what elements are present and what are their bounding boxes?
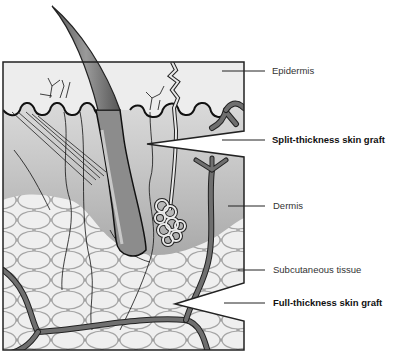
skin-cross-section-diagram (0, 0, 399, 364)
label-subcutaneous-tissue: Subcutaneous tissue (273, 265, 361, 275)
label-epidermis: Epidermis (272, 66, 314, 76)
label-dermis: Dermis (273, 201, 303, 211)
label-split-thickness-graft: Split-thickness skin graft (272, 135, 385, 145)
label-full-thickness-graft: Full-thickness skin graft (273, 298, 382, 308)
